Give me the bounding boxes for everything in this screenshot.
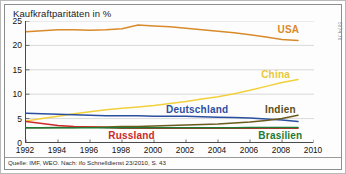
y-tick-label: 15 [13,65,22,75]
x-tick-label: 2004 [208,145,226,155]
x-axis-ticks: 1992199419961998200020022004200620082010 [25,145,313,157]
series-label-russland: Russland [108,130,155,141]
series-label-deutschland: Deutschland [166,104,228,115]
series-line-deutschland [26,113,298,121]
series-line-usa [26,25,298,41]
chart-title: Kaufkraftparitäten in % [13,8,111,19]
y-tick-label: 5 [17,114,22,124]
x-tick-label: 1994 [48,145,66,155]
series-label-brasilien: Brasilien [258,130,302,141]
source-divider [5,157,341,158]
y-axis-ticks: 0510152025 [4,21,22,143]
side-reference-code: 5874.76 [337,22,342,41]
y-tick-label: 10 [13,89,22,99]
y-tick-label: 25 [13,16,22,26]
series-label-indien: Indien [265,104,296,115]
x-tick-label: 2000 [144,145,162,155]
y-tick-label: 20 [13,40,22,50]
series-canvas [26,21,314,143]
x-tick-label: 2008 [272,145,290,155]
x-tick-label: 2006 [240,145,258,155]
series-label-china: China [261,68,290,79]
series-label-usa: USA [278,24,300,35]
plot-area: USAChinaDeutschlandIndienRusslandBrasili… [25,21,313,143]
x-tick-label: 2002 [176,145,194,155]
source-note: Quelle: IMF, WEO. Nach: ifo Schnelldiens… [8,159,166,166]
x-tick-label: 1998 [112,145,130,155]
chart-figure: Kaufkraftparitäten in % 5874.76 05101520… [0,0,346,174]
x-tick-label: 2010 [304,145,322,155]
x-tick-label: 1992 [16,145,34,155]
x-tick-label: 1996 [80,145,98,155]
